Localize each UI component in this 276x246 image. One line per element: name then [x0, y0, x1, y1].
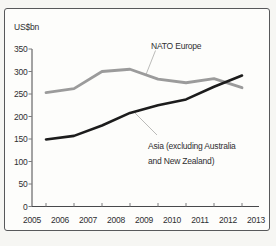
y-tick-label: 50 [18, 179, 28, 189]
y-tick-label: 200 [14, 112, 28, 122]
nato-europe-leader-line [146, 51, 156, 75]
x-tick-label: 2011 [191, 215, 209, 225]
x-tick-label: 2008 [107, 215, 126, 225]
asia-series-label-line2: and New Zealand) [148, 154, 236, 169]
nato-europe-line [46, 69, 242, 92]
x-tick-label: 2006 [51, 215, 70, 225]
nato-europe-series-label: NATO Europe [151, 39, 201, 54]
y-tick-label: 100 [14, 157, 28, 167]
asia-series-label-line1: Asia (excluding Australia [148, 139, 236, 154]
defence-spending-line-chart: 0501001502002503003502005200620072008200… [5, 9, 269, 230]
x-tick-label: 2013 [247, 215, 266, 225]
y-tick-label: 250 [14, 89, 28, 99]
y-axis-unit-label: US$bn [14, 20, 39, 35]
x-tick-label: 2005 [23, 215, 42, 225]
y-tick-label: 0 [23, 202, 28, 212]
chart-panel: 0501001502002503003502005200620072008200… [4, 8, 270, 231]
x-tick-label: 2010 [163, 215, 182, 225]
y-tick-label: 300 [14, 67, 28, 77]
asia-line [46, 76, 242, 140]
y-tick-label: 350 [14, 44, 28, 54]
nato-europe-series-label-text: NATO Europe [151, 41, 201, 51]
x-tick-label: 2012 [219, 215, 238, 225]
asia-leader-line [135, 113, 158, 136]
y-tick-label: 150 [14, 134, 28, 144]
x-tick-label: 2009 [135, 215, 154, 225]
asia-series-label: Asia (excluding Australia and New Zealan… [148, 139, 236, 169]
x-tick-label: 2007 [79, 215, 98, 225]
